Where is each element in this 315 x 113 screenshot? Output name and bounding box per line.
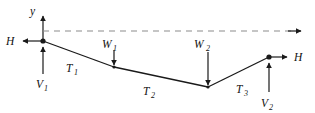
nodes [40,38,271,88]
force-V1: V 1 [36,47,48,93]
force-label-V2-subscript: 2 [269,103,273,112]
force-W2: W 2 [194,38,210,85]
y-axis: y [29,5,43,41]
cable-label-T3-subscript: 3 [243,89,248,98]
force-label-H-left: H [5,35,15,47]
force-label-H-right: H [293,51,303,63]
cable-segment-T2: T 2 [114,67,208,100]
cable-label-T3: T [236,83,244,95]
force-label-W1-subscript: 1 [113,44,117,53]
cable-label-T2: T [143,85,151,97]
node-load-point-2 [206,85,209,88]
cable-label-T2-subscript: 2 [151,91,155,100]
force-V2: V 2 [261,63,273,112]
cable-label-T1: T [66,62,74,74]
node-load-point-1 [112,65,115,68]
force-label-W2-subscript: 2 [206,44,210,53]
force-W1: W 1 [102,38,117,65]
force-label-W2: W [194,38,205,50]
diagram-canvas: y T 1 T 2 T 3 [0,0,315,113]
force-H-right: H [269,51,303,63]
cable-line-T2 [114,67,208,87]
force-H-left: H [5,35,43,47]
force-label-W1: W [102,38,113,50]
cable-free-body-diagram: y T 1 T 2 T 3 [0,0,315,113]
cable-label-T1-subscript: 1 [74,68,78,77]
cable-segment-T3: T 3 [208,57,269,98]
force-label-V1-subscript: 1 [44,84,48,93]
y-axis-label: y [29,5,36,18]
